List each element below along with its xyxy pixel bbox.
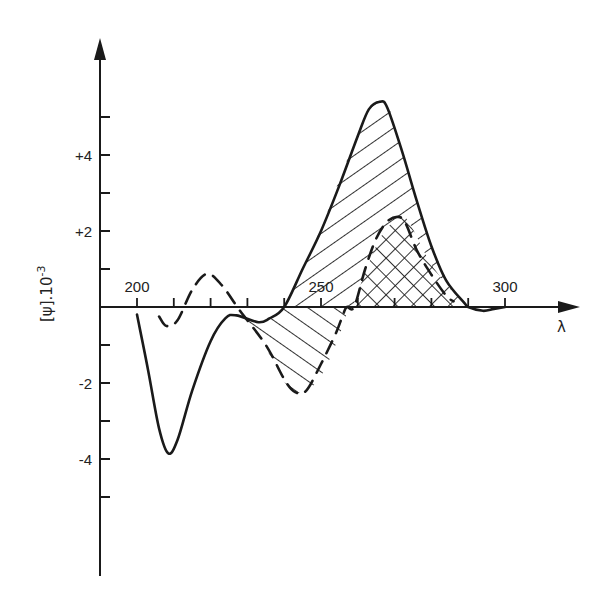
x-tick-label: 300 (492, 278, 517, 295)
x-tick-label: 200 (124, 278, 149, 295)
y-axis-arrow-icon (94, 38, 106, 60)
x-tick-label: 250 (308, 278, 333, 295)
y-tick-label: -4 (79, 451, 92, 468)
cd-spectrum-chart: +4+2-2-4 200250300 λ [ψ].10-3 (0, 0, 600, 602)
y-tick-label: +2 (75, 223, 92, 240)
x-tick-labels: 200250300 (124, 278, 517, 295)
y-axis-label-exponent: -3 (35, 266, 48, 277)
hatch-region-negative (230, 300, 360, 400)
y-tick-label: -2 (79, 375, 92, 392)
y-axis-label-main: [ψ].10 (38, 277, 56, 322)
x-axis-arrow-icon (558, 301, 580, 313)
y-axis-label: [ψ].10-3 (35, 266, 56, 322)
y-tick-labels: +4+2-2-4 (75, 147, 92, 468)
y-tick-label: +4 (75, 147, 92, 164)
x-axis-label: λ (557, 318, 566, 336)
svg-text:[ψ].10-3: [ψ].10-3 (35, 266, 56, 322)
